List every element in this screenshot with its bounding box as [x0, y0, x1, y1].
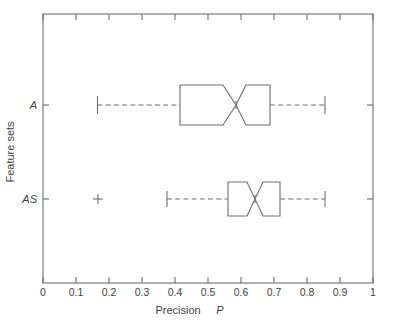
x-axis-tick-labels: 0 0.1 0.2 0.3 0.4 0.5 0.6 0.7 0.8 0.9 1 [40, 286, 376, 298]
box-group-as [93, 182, 325, 216]
x-tick-label-4: 0.4 [168, 286, 183, 298]
y-axis-category-labels: A AS [21, 99, 37, 205]
boxplot-canvas: 0 0.1 0.2 0.3 0.4 0.5 0.6 0.7 0.8 0.9 1 … [0, 0, 393, 325]
y-category-label-a: A [29, 99, 37, 111]
x-tick-label-7: 0.7 [267, 286, 282, 298]
box-group-a [98, 85, 326, 125]
y-axis-title-text: Feature sets [4, 121, 16, 183]
outlier-marker-as [93, 194, 103, 204]
x-tick-label-8: 0.8 [300, 286, 315, 298]
x-tick-label-0: 0 [40, 286, 46, 298]
plot-frame [43, 14, 373, 283]
box-outline-a [180, 85, 270, 125]
plot-frame-rect [43, 14, 373, 283]
x-tick-label-2: 0.2 [102, 286, 117, 298]
y-axis-title: Feature sets [4, 121, 16, 183]
x-tick-label-6: 0.6 [234, 286, 249, 298]
x-axis-ticks [43, 14, 373, 283]
x-axis-title: Precision P [155, 304, 224, 316]
box-plot-chart: 0 0.1 0.2 0.3 0.4 0.5 0.6 0.7 0.8 0.9 1 … [0, 0, 393, 325]
x-axis-title-symbol: P [216, 304, 224, 316]
x-axis-title-text: Precision [155, 304, 200, 316]
x-tick-label-5: 0.5 [201, 286, 216, 298]
y-axis-ticks [43, 105, 373, 199]
x-tick-label-3: 0.3 [135, 286, 150, 298]
y-category-label-as: AS [21, 193, 37, 205]
x-tick-label-10: 1 [370, 286, 376, 298]
box-outline-as [228, 182, 280, 216]
x-tick-label-9: 0.9 [333, 286, 348, 298]
x-tick-label-1: 0.1 [69, 286, 84, 298]
